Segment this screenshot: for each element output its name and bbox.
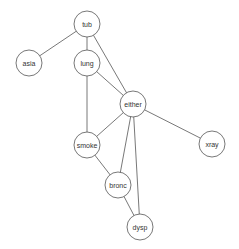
graph-canvas: tubasialungeitherxraysmokebroncdysp [0,0,239,249]
node-label: xray [205,141,219,149]
node-label: tub [82,21,92,28]
nodes-layer: tubasialungeitherxraysmokebroncdysp [16,11,225,240]
edge-either-dysp [133,104,140,227]
node-label: lung [80,60,93,68]
node-asia[interactable]: asia [16,50,42,76]
node-label: smoke [77,142,98,149]
node-tub[interactable]: tub [74,11,100,37]
node-bronc[interactable]: bronc [105,172,131,198]
node-label: asia [23,60,36,67]
node-lung[interactable]: lung [74,50,100,76]
node-label: bronc [109,182,127,189]
node-xray[interactable]: xray [199,131,225,157]
node-either[interactable]: either [120,91,146,117]
node-dysp[interactable]: dysp [127,214,153,240]
node-label: dysp [133,224,148,232]
node-label: either [124,101,142,108]
node-smoke[interactable]: smoke [74,132,100,158]
